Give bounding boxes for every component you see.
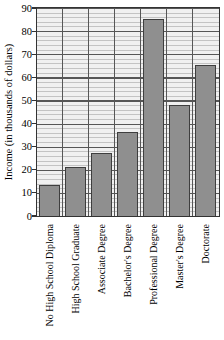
bar <box>117 132 138 215</box>
y-tick-label: 70 <box>4 48 32 61</box>
y-tick-label: 20 <box>4 163 32 176</box>
x-category-label: No High School Diploma <box>43 224 57 338</box>
bar-column <box>89 8 115 216</box>
bar-column <box>141 8 167 216</box>
x-category-label: Bachelor's Degree <box>121 224 135 338</box>
y-tick-label: 50 <box>4 94 32 107</box>
x-category-label: High School Graduate <box>69 224 83 338</box>
y-tick-label: 0 <box>4 210 32 223</box>
x-category-label: Associate Degree <box>95 224 109 338</box>
bar-column <box>167 8 193 216</box>
y-axis-title: Income (in thousands of dollars) <box>2 8 16 216</box>
bar <box>195 65 216 215</box>
bar-column <box>193 8 219 216</box>
plot-area <box>36 7 220 217</box>
bar-column <box>63 8 89 216</box>
x-category-label: Master's Degree <box>173 224 187 338</box>
bar <box>65 167 86 216</box>
bar-column <box>37 8 63 216</box>
x-category-label: Professional Degree <box>147 224 161 338</box>
bar <box>169 105 190 216</box>
y-tick-label: 60 <box>4 71 32 84</box>
y-tick-label: 80 <box>4 25 32 38</box>
y-tick-label: 30 <box>4 140 32 153</box>
bar <box>143 19 164 215</box>
bar-column <box>115 8 141 216</box>
y-tick-label: 10 <box>4 186 32 199</box>
y-tick-label: 40 <box>4 117 32 130</box>
y-tick-label: 90 <box>4 2 32 15</box>
bar <box>91 153 112 215</box>
bar <box>39 185 60 215</box>
income-by-education-bar-chart: Income (in thousands of dollars) 9080706… <box>0 0 224 340</box>
x-category-label: Doctorate <box>199 224 213 338</box>
